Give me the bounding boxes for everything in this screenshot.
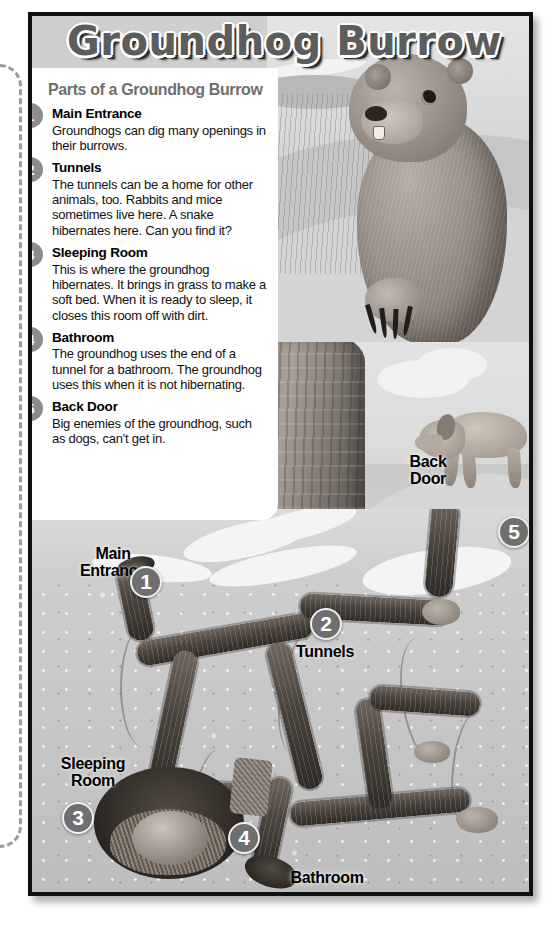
desc-bathroom: The groundhog uses the end of a tunnel f… <box>52 346 266 392</box>
number-badge-3: 3 <box>28 242 43 267</box>
list-item-main-entrance[interactable]: 1 Main Entrance Groundhogs can dig many … <box>48 106 266 153</box>
groundhog-ear-left <box>365 64 391 90</box>
groundhog-eye <box>421 90 436 105</box>
list-item-sleeping-room[interactable]: 3 Sleeping Room This is where the ground… <box>48 245 266 323</box>
groundhog-nose <box>365 106 387 121</box>
dirt-plug <box>229 757 273 817</box>
poster-stage: Parts of a Groundhog Burrow 1 Main Entra… <box>0 0 556 932</box>
term-tunnels: Tunnels <box>52 160 266 176</box>
term-back-door: Back Door <box>52 399 266 415</box>
groundhog-figure <box>329 46 519 342</box>
number-badge-4: 4 <box>28 327 43 352</box>
marker-4[interactable]: 4 <box>228 822 260 854</box>
rabbit-in-tunnel <box>422 599 460 625</box>
number-badge-2: 2 <box>28 157 43 182</box>
dog-snout <box>415 434 443 452</box>
dog-leg <box>507 448 522 489</box>
number-badge-1: 1 <box>28 103 43 128</box>
desc-back-door: Big enemies of the groundhog, such as do… <box>52 416 266 447</box>
marker-5[interactable]: 5 <box>498 516 530 548</box>
poster-frame: Parts of a Groundhog Burrow 1 Main Entra… <box>28 12 533 896</box>
label-back-door: Back Door <box>388 454 468 488</box>
desc-sleeping-room: This is where the groundhog hibernates. … <box>52 262 266 323</box>
desc-main-entrance: Groundhogs can dig many openings in thei… <box>52 123 266 154</box>
mouse-in-tunnel <box>414 741 450 763</box>
number-badge-5: 5 <box>28 396 43 421</box>
groundhog-head <box>349 54 467 162</box>
cloud-shape <box>417 348 487 382</box>
list-item-back-door[interactable]: 5 Back Door Big enemies of the groundhog… <box>48 399 266 446</box>
cut-line-tab <box>0 64 22 848</box>
card-heading: Parts of a Groundhog Burrow <box>48 80 253 100</box>
label-tunnels: Tunnels <box>280 644 370 661</box>
snake-in-tunnel <box>456 807 498 833</box>
groundhog-illustration <box>267 16 533 342</box>
groundhog-teeth <box>373 126 385 140</box>
list-item-bathroom[interactable]: 4 Bathroom The groundhog uses the end of… <box>48 330 266 393</box>
term-sleeping-room: Sleeping Room <box>52 245 266 261</box>
list-item-tunnels[interactable]: 2 Tunnels The tunnels can be a home for … <box>48 160 266 238</box>
page-title: Groundhog Burrow <box>32 18 533 64</box>
hibernating-groundhog <box>132 811 208 865</box>
desc-tunnels: The tunnels can be a home for other anim… <box>52 177 266 238</box>
label-bathroom: Bathroom <box>272 870 382 887</box>
label-sleeping-room: Sleeping Room <box>38 756 148 790</box>
marker-3[interactable]: 3 <box>62 802 94 834</box>
marker-2[interactable]: 2 <box>310 608 342 640</box>
term-bathroom: Bathroom <box>52 330 266 346</box>
parts-list-card: Parts of a Groundhog Burrow 1 Main Entra… <box>28 68 278 520</box>
marker-1[interactable]: 1 <box>130 566 162 598</box>
term-main-entrance: Main Entrance <box>52 106 266 122</box>
